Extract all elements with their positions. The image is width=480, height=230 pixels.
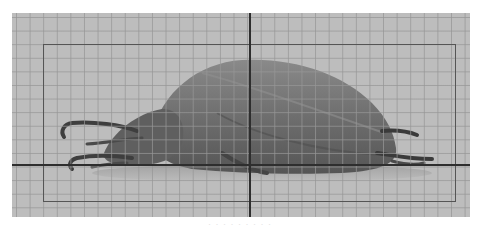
crosshair-vertical[interactable]: [249, 13, 251, 217]
image-caption: · · · · · · · · ·: [0, 219, 480, 229]
beetle-specimen-image: [12, 13, 470, 217]
crosshair-horizontal[interactable]: [12, 164, 470, 166]
image-viewer[interactable]: [12, 13, 470, 217]
